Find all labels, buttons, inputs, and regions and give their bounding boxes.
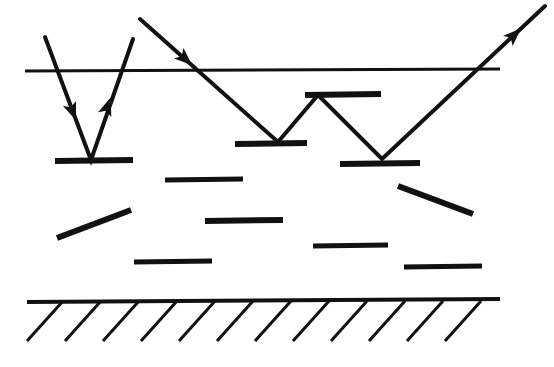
- ray-scattering-diagram: [0, 0, 554, 367]
- platelet-upper-mid: [165, 179, 243, 180]
- platelet-lower-left: [134, 261, 212, 262]
- platelet-lower-right-b: [404, 266, 482, 267]
- surface-line: [25, 69, 500, 71]
- platelet-mid-bounce-1: [235, 143, 307, 144]
- platelet-lower-right-a: [313, 245, 388, 246]
- platelet-mid-bounce-2: [340, 163, 420, 164]
- platelet-left-bounce: [55, 160, 133, 161]
- platelet-center: [205, 220, 283, 221]
- diagram-canvas: [0, 0, 554, 367]
